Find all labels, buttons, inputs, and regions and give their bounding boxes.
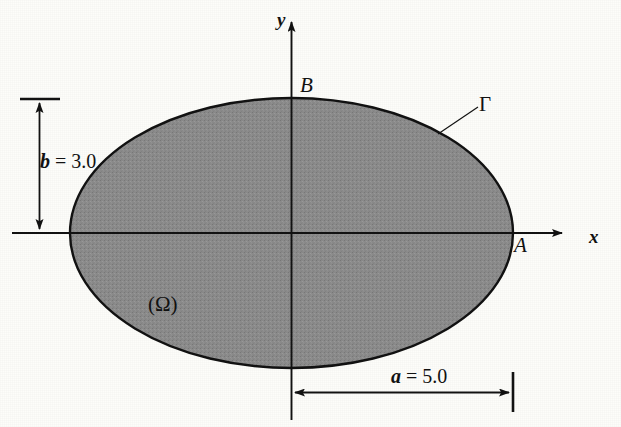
dimension-a-value: 5.0	[422, 365, 447, 387]
point-label-b: B	[300, 75, 313, 96]
boundary-label-gamma: Γ	[479, 94, 491, 115]
dimension-a-symbol: a	[391, 365, 401, 387]
figure-canvas: y x B A Γ (Ω) b = 3.0 a = 5.0	[0, 0, 621, 427]
gamma-leader	[438, 107, 478, 134]
diagram-svg	[0, 0, 621, 427]
dimension-b-equals: =	[55, 150, 66, 172]
y-axis-label: y	[277, 10, 285, 29]
region-label-omega: (Ω)	[148, 294, 178, 315]
point-label-a: A	[514, 235, 527, 256]
dimension-a-equals: =	[406, 365, 417, 387]
dimension-b-symbol: b	[40, 150, 50, 172]
dimension-a-label: a = 5.0	[391, 366, 447, 386]
gamma-leader-line	[438, 107, 478, 134]
dimension-b-label: b = 3.0	[40, 151, 96, 171]
dimension-b-value: 3.0	[71, 150, 96, 172]
x-axis-label: x	[589, 227, 599, 246]
